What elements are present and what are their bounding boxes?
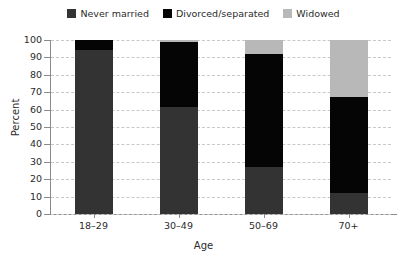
y-axis-tick-label: 10 bbox=[2, 192, 42, 202]
bar-segment[interactable] bbox=[245, 40, 283, 54]
bar-stack-group[interactable] bbox=[160, 40, 198, 214]
bar-stack-group[interactable] bbox=[330, 40, 368, 214]
bar-segment[interactable] bbox=[160, 42, 198, 107]
legend-item[interactable]: Divorced/separated bbox=[163, 9, 269, 19]
bar-stack-group[interactable] bbox=[75, 40, 113, 214]
y-axis-tick bbox=[44, 40, 50, 41]
bar-segment[interactable] bbox=[75, 40, 113, 50]
y-axis-tick bbox=[44, 57, 50, 58]
bar-stack bbox=[75, 40, 113, 214]
y-axis-tick-label: 20 bbox=[2, 174, 42, 184]
x-axis-tick-label: 50–69 bbox=[229, 221, 299, 231]
y-axis-tick-label: 40 bbox=[2, 140, 42, 150]
y-axis-tick bbox=[44, 162, 50, 163]
legend-swatch-icon bbox=[67, 9, 76, 18]
legend-item-label: Divorced/separated bbox=[176, 9, 269, 19]
y-axis-tick-label: 90 bbox=[2, 53, 42, 63]
x-axis-tick bbox=[264, 214, 265, 218]
x-axis-tick bbox=[179, 214, 180, 218]
bar-segment[interactable] bbox=[160, 40, 198, 42]
y-axis-tick bbox=[44, 127, 50, 128]
x-axis-tick-label: 18–29 bbox=[59, 221, 129, 231]
x-axis-tick bbox=[349, 214, 350, 218]
chart-legend: Never marriedDivorced/separatedWidowed bbox=[0, 9, 407, 19]
bar-stack-group[interactable] bbox=[245, 40, 283, 214]
chart-figure: Never marriedDivorced/separatedWidowed P… bbox=[0, 0, 407, 266]
bar-segment[interactable] bbox=[330, 97, 368, 193]
bar-segment[interactable] bbox=[245, 167, 283, 214]
bar-segment[interactable] bbox=[330, 40, 368, 97]
y-axis-tick bbox=[44, 179, 50, 180]
legend-swatch-icon bbox=[163, 9, 172, 18]
x-axis-tick-label: 30–49 bbox=[144, 221, 214, 231]
y-axis-tick-label: 50 bbox=[2, 122, 42, 132]
bar-segment[interactable] bbox=[330, 193, 368, 214]
y-axis-tick bbox=[44, 214, 50, 215]
x-axis-title: Age bbox=[0, 240, 407, 251]
y-axis-tick bbox=[44, 197, 50, 198]
plot-area bbox=[51, 40, 391, 214]
legend-swatch-icon bbox=[283, 9, 292, 18]
x-axis-tick-label: 70+ bbox=[314, 221, 384, 231]
y-axis-tick-label: 0 bbox=[2, 209, 42, 219]
y-axis-tick bbox=[44, 144, 50, 145]
legend-item[interactable]: Widowed bbox=[283, 9, 339, 19]
bar-segment[interactable] bbox=[245, 54, 283, 167]
bar-segment[interactable] bbox=[75, 50, 113, 214]
y-axis-tick-labels: 0102030405060708090100 bbox=[0, 40, 42, 215]
y-axis-tick-label: 30 bbox=[2, 157, 42, 167]
bar-segment[interactable] bbox=[160, 107, 198, 214]
y-axis-tick bbox=[44, 92, 50, 93]
bar-stack bbox=[330, 40, 368, 214]
bar-stack bbox=[245, 40, 283, 214]
y-axis-tick-label: 80 bbox=[2, 70, 42, 80]
y-axis-tick-label: 70 bbox=[2, 87, 42, 97]
legend-item-label: Widowed bbox=[296, 9, 339, 19]
y-axis-tick bbox=[44, 110, 50, 111]
bar-stack bbox=[160, 40, 198, 214]
y-axis-tick-label: 100 bbox=[2, 35, 42, 45]
legend-item[interactable]: Never married bbox=[67, 9, 149, 19]
x-axis-tick bbox=[94, 214, 95, 218]
legend-item-label: Never married bbox=[80, 9, 149, 19]
y-axis-tick bbox=[44, 75, 50, 76]
y-gridline bbox=[51, 214, 391, 215]
y-axis-tick-label: 60 bbox=[2, 105, 42, 115]
